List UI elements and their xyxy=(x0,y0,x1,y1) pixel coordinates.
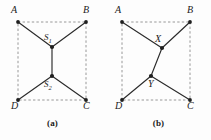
vertex-dot-a-A xyxy=(16,20,20,24)
vertex-label-a-A: A xyxy=(11,5,17,15)
vertex-label-a-D: D xyxy=(11,101,18,111)
vertex-dot-a-B xyxy=(84,20,88,24)
inner-dot-b-X xyxy=(160,46,164,50)
steiner-label-a-S1: S1 xyxy=(44,33,52,44)
figure-caption-b: (b) xyxy=(106,118,211,128)
figure-panel-b: A B C D X Y (b) xyxy=(106,0,211,140)
steiner-label-a-S2-subscript: 2 xyxy=(49,84,52,91)
edge-a-B-S1 xyxy=(52,22,86,47)
figure-a-steiner-tree xyxy=(18,22,86,100)
steiner-dot-a-S1 xyxy=(50,45,54,49)
figure-caption-a: (a) xyxy=(0,118,105,128)
edge-b-D-Y xyxy=(122,76,151,100)
edge-b-B-X xyxy=(162,22,190,48)
steiner-label-a-S2: S2 xyxy=(44,80,52,91)
vertex-label-b-C: C xyxy=(187,101,194,111)
vertex-label-b-A: A xyxy=(115,5,121,15)
vertex-dot-b-B xyxy=(188,20,192,24)
figure-panel-a: A B C D S1 S2 (a) xyxy=(0,0,105,140)
vertex-label-a-B: B xyxy=(83,5,89,15)
steiner-label-a-S1-subscript: 1 xyxy=(49,37,52,44)
figure-board: A B C D S1 S2 (a) xyxy=(0,0,211,140)
edge-a-C-S2 xyxy=(52,76,86,100)
vertex-label-b-B: B xyxy=(187,5,193,15)
inner-label-b-Y: Y xyxy=(148,79,154,89)
vertex-dot-b-A xyxy=(120,20,124,24)
vertex-label-a-C: C xyxy=(83,101,90,111)
edge-b-X-Y xyxy=(151,48,162,76)
edge-b-C-Y xyxy=(151,76,190,100)
steiner-dot-a-S2 xyxy=(50,74,54,78)
inner-label-b-X: X xyxy=(155,34,161,44)
vertex-label-b-D: D xyxy=(115,101,122,111)
